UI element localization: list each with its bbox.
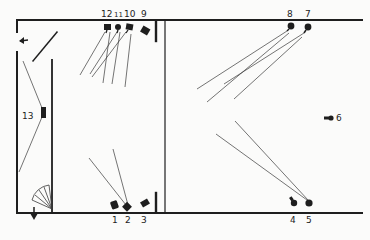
lamp-2 (122, 202, 132, 212)
room-walls (17, 20, 362, 213)
lamp-13 (41, 107, 46, 118)
lamp-label-12: 12 (101, 9, 112, 19)
lamp-label-2: 2 (125, 215, 131, 225)
lamp-6 (324, 115, 334, 120)
lamp-label-6: 6 (336, 113, 342, 123)
left-arrow-icon (19, 37, 28, 44)
lamp-8 (287, 23, 294, 31)
lamp-4 (289, 196, 297, 206)
lamp-9 (140, 26, 150, 36)
lighting-plan-diagram: 12 11 10 9 8 7 6 13 1 2 3 4 5 (0, 0, 370, 240)
lamp-label-7: 7 (305, 9, 311, 19)
lamp-10 (126, 23, 134, 33)
door-leaf (33, 32, 57, 61)
lamp-label-5: 5 (306, 215, 312, 225)
lamp-5 (305, 199, 312, 206)
lamp-label-1: 1 (112, 215, 118, 225)
lamp-labels: 12 11 10 9 8 7 6 13 1 2 3 4 5 (22, 9, 342, 225)
lamp-label-8: 8 (287, 9, 293, 19)
beam-lines (19, 31, 308, 205)
lamp-label-10: 10 (124, 9, 136, 19)
lamp-label-3: 3 (141, 215, 147, 225)
down-arrow-icon (30, 207, 38, 220)
lamp-label-4: 4 (290, 215, 296, 225)
lamp-11 (115, 24, 121, 33)
lamp-3 (140, 198, 150, 207)
lamp-label-13: 13 (22, 111, 33, 121)
lamp-1 (110, 200, 119, 210)
lamp-label-9: 9 (141, 9, 147, 19)
lamp-12 (104, 24, 111, 33)
lamp-7 (304, 24, 311, 33)
lamp-label-11: 11 (114, 11, 123, 19)
stair-fan-symbol (32, 185, 52, 209)
